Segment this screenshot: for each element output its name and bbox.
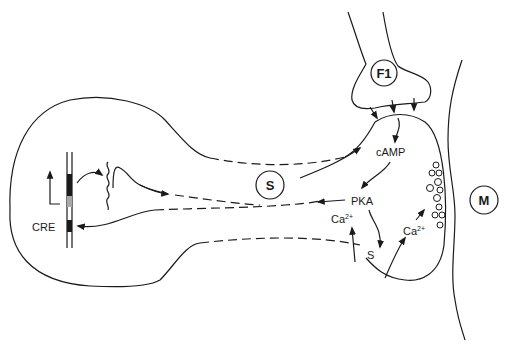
camp-to-pka-arrow [362, 162, 390, 188]
f1-cell-label: F1 [371, 60, 397, 86]
synaptic-vesicles [427, 162, 446, 228]
calcium-right-label: Ca2+ [403, 225, 425, 237]
pka-left-arrow [318, 200, 345, 202]
cre-label: CRE [32, 221, 55, 233]
to-camp-arrow [395, 118, 399, 142]
motor-cell-label: M [470, 186, 498, 214]
sensory-cell-label: S [256, 171, 284, 199]
calcium-left-label: Ca2+ [331, 213, 353, 225]
svg-text:M: M [479, 193, 490, 208]
pka-to-s-channel-arrow [369, 210, 380, 247]
f1-interneuron-outline [348, 12, 431, 109]
s-channel-label: S [367, 249, 374, 261]
dna-strand [67, 152, 72, 248]
protein-transport-dashed [175, 195, 260, 205]
signaling-diagram: F1 S M CRE cAMP PKA S Ca2+ [0, 0, 507, 350]
svg-text:S: S [266, 178, 275, 193]
calcium-right-arrow [385, 238, 405, 278]
mrna-wavy [107, 162, 110, 210]
sensory-neuron-outline [10, 97, 446, 286]
motor-neuron-outline [448, 60, 465, 340]
pka-label: PKA [351, 195, 374, 207]
calcium-to-vesicles-arrow [416, 210, 424, 220]
calcium-left-arrow [352, 228, 355, 262]
protein-curve [113, 167, 168, 194]
pka-nuclear-translocation-dashed [155, 201, 320, 210]
transcription-arrow [77, 172, 102, 183]
svg-text:F1: F1 [376, 66, 391, 81]
transcription-start-arrow [50, 172, 60, 204]
camp-label: cAMP [376, 146, 405, 158]
pka-to-cre-arrow [78, 210, 155, 227]
